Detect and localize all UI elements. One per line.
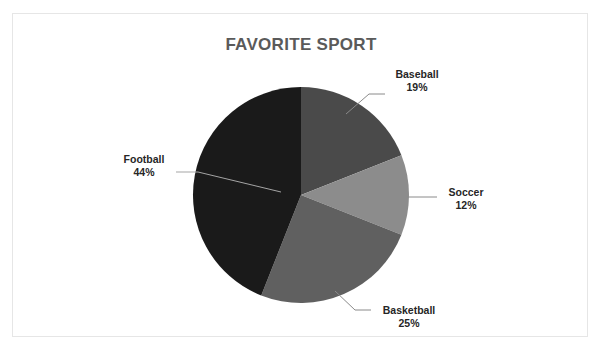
data-label-basketball-value: 25%: [365, 317, 453, 330]
data-label-football-value: 44%: [104, 166, 184, 179]
data-label-basketball: Basketball 25%: [365, 304, 453, 330]
data-label-soccer: Soccer 12%: [433, 186, 499, 212]
data-label-baseball: Baseball 19%: [380, 68, 454, 94]
data-label-football-name: Football: [104, 153, 184, 166]
pie-chart-plot-area: [13, 14, 589, 338]
pie-chart-svg: [13, 14, 589, 338]
chart-figure-frame: FAVORITE SPORT Baseball 19% Soccer 12%: [12, 13, 588, 337]
data-label-baseball-value: 19%: [380, 81, 454, 94]
data-label-baseball-name: Baseball: [380, 68, 454, 81]
data-label-soccer-name: Soccer: [433, 186, 499, 199]
data-label-soccer-value: 12%: [433, 199, 499, 212]
data-label-football: Football 44%: [104, 153, 184, 179]
data-label-basketball-name: Basketball: [365, 304, 453, 317]
scan-artifact-strip: [0, 0, 602, 12]
